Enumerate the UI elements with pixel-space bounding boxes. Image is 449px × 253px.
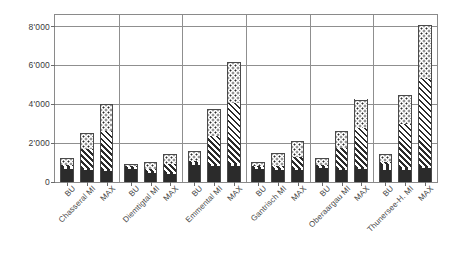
x-axis-label: MAX [162, 184, 181, 203]
bar-segment-4 [292, 141, 304, 157]
bar-segment-4 [228, 62, 240, 104]
bar-bu [251, 162, 265, 182]
bar-segment-1 [228, 166, 240, 183]
bar-segment-3 [399, 124, 411, 168]
bar-segment-4 [336, 131, 348, 148]
x-axis-labels: BUChasseral MIMAXBUDiemtigtal MIMAXBUEmm… [54, 184, 438, 253]
x-axis-label: MAX [416, 184, 435, 203]
bar-segment-3 [81, 149, 93, 168]
bar-segment-3 [164, 164, 176, 172]
bar-bu [124, 164, 138, 182]
y-axis-tick-mark [51, 104, 55, 105]
x-axis-label: MAX [98, 184, 117, 203]
bar-segment-1 [101, 171, 113, 182]
bar-segment-1 [399, 170, 411, 182]
bar-mi [80, 133, 94, 182]
bar-mi [398, 95, 412, 182]
bar-segment-4 [419, 25, 431, 79]
group-separator [119, 15, 120, 182]
x-axis-label: MAX [289, 184, 308, 203]
x-axis-label: BU [63, 184, 77, 198]
bar-segment-4 [81, 133, 93, 149]
y-axis-tick-mark [51, 182, 55, 183]
x-axis-label: BU [318, 184, 332, 198]
x-axis-label: BU [190, 184, 204, 198]
x-axis-label: BU [254, 184, 268, 198]
bar-segment-1 [125, 169, 137, 182]
bar-segment-1 [316, 168, 328, 182]
bar-segment-1 [272, 170, 284, 182]
bar-segment-4 [355, 100, 367, 128]
bar-segment-4 [61, 158, 73, 165]
y-axis-tick-mark [51, 26, 55, 27]
bar-max [354, 99, 368, 182]
bar-segment-1 [61, 169, 73, 182]
bar-segment-1 [145, 173, 157, 182]
bar-mi [207, 109, 221, 182]
bar-segment-4 [164, 154, 176, 164]
bar-max [227, 62, 241, 182]
bar-segment-4 [272, 153, 284, 166]
bar-segment-3 [101, 131, 113, 169]
bar-segment-4 [189, 151, 201, 161]
y-axis-tick-mark [51, 65, 55, 66]
bar-segment-1 [355, 169, 367, 182]
y-axis-tick-mark [51, 143, 55, 144]
clipped-title [0, 0, 449, 6]
bar-segment-3 [208, 136, 220, 164]
bar-segment-4 [208, 109, 220, 136]
bar-segment-3 [355, 128, 367, 168]
bar-segment-1 [164, 174, 176, 182]
bar-segment-1 [252, 169, 264, 182]
bar-segment-1 [208, 166, 220, 182]
bar-segment-4 [101, 104, 113, 132]
bar-max [291, 141, 305, 182]
bar-bu [60, 158, 74, 182]
bar-mi [335, 131, 349, 182]
x-axis-label: MAX [225, 184, 244, 203]
bar-bu [315, 158, 329, 182]
bar-max [418, 25, 432, 182]
bar-segment-4 [380, 154, 392, 163]
group-separator [373, 15, 374, 182]
group-separator [310, 15, 311, 182]
bar-mi [271, 153, 285, 182]
x-axis-label: MAX [353, 184, 372, 203]
bar-segment-3 [228, 103, 240, 163]
bar-segment-2 [380, 164, 392, 171]
group-separator [182, 15, 183, 182]
bar-max [100, 104, 114, 182]
bar-segment-3 [419, 79, 431, 167]
bar-mi [144, 162, 158, 182]
plot-area: 02'0004'0006'0008'000 [54, 14, 438, 183]
x-axis-label: BU [127, 184, 141, 198]
plot-inner: 02'0004'0006'0008'000 [55, 15, 437, 182]
group-separator [246, 15, 247, 182]
bar-segment-1 [419, 168, 431, 182]
bar-bu [188, 151, 202, 182]
bar-segment-3 [336, 148, 348, 167]
bar-segment-4 [399, 95, 411, 124]
bar-segment-4 [145, 162, 157, 169]
bar-segment-1 [336, 170, 348, 182]
bar-segment-1 [380, 170, 392, 182]
chart-screenshot: 02'0004'0006'0008'000 BUChasseral MIMAXB… [0, 0, 449, 253]
x-axis-label: BU [381, 184, 395, 198]
bar-segment-1 [292, 170, 304, 182]
bar-max [163, 154, 177, 182]
bar-segment-1 [189, 165, 201, 182]
bar-segment-1 [81, 170, 93, 182]
bar-bu [379, 154, 393, 182]
bar-segment-3 [292, 157, 304, 168]
